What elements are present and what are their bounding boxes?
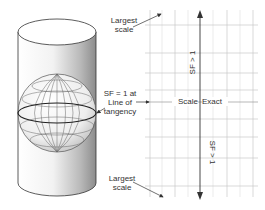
tangency-label: SF = 1 at Line of tangency	[98, 89, 142, 116]
label-line: Largest	[102, 174, 142, 183]
label-line: Line of	[98, 98, 142, 107]
cylinder-top-ellipse	[18, 19, 96, 45]
label-line: scale	[104, 25, 144, 34]
label-line: SF = 1 at	[98, 89, 142, 98]
label-line: Largest	[104, 16, 144, 25]
largest-scale-bottom-label: Largest scale	[102, 174, 142, 192]
scale-label: Scale	[172, 97, 198, 106]
exact-label: Exact	[202, 97, 228, 106]
label-line: tangency	[98, 107, 142, 116]
sf-upper-label: SF > 1	[188, 51, 197, 75]
largest-scale-top-label: Largest scale	[104, 16, 144, 34]
label-line: scale	[102, 183, 142, 192]
globe	[18, 74, 96, 152]
sf-lower-label: SF > 1	[208, 141, 217, 165]
